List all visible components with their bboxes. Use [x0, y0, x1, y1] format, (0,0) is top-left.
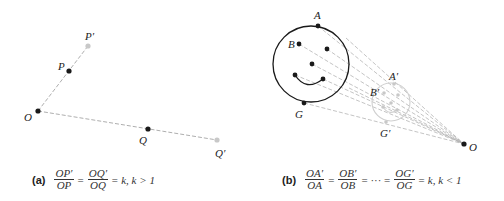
ray-oq: [38, 111, 217, 140]
right-eye-point: [325, 47, 330, 52]
point-o: [35, 108, 40, 113]
panel-b: A B G A′ B′ G′ O: [273, 9, 477, 153]
point-p: [66, 68, 71, 73]
nose-point: [310, 62, 315, 67]
fraction-oq: OQ′ OQ: [88, 168, 108, 191]
label-a: A: [313, 9, 321, 21]
label-q-prime: Q′: [215, 147, 226, 159]
ray-op: [38, 46, 88, 111]
label-a-prime: A′: [388, 70, 399, 82]
label-o: O: [24, 111, 32, 123]
center-o: [461, 141, 466, 146]
point-a-prime: [392, 82, 396, 86]
caption-a-tag: (a): [32, 174, 45, 186]
caption-b: (b) OA′ OA = OB′ OB = ··· = OG′ OG = k, …: [282, 168, 462, 191]
caption-b-ratio: = k, k < 1: [418, 174, 462, 186]
label-b-prime: B′: [370, 86, 380, 98]
original-mouth: [295, 75, 323, 85]
caption-a: (a) OP′ OP = OQ′ OQ = k, k > 1: [32, 168, 155, 191]
image-mouth-left: [381, 105, 385, 109]
label-g-prime: G′: [380, 127, 391, 139]
fraction-op: OP′ OP: [54, 168, 73, 191]
panel-a: P′ P O Q Q′: [24, 30, 226, 159]
point-q: [145, 126, 150, 131]
image-right-eye: [396, 93, 400, 97]
fraction-ob: OB′ OB: [338, 168, 357, 191]
image-mouth-right: [395, 108, 399, 112]
point-p-prime: [85, 43, 90, 48]
caption-b-tag: (b): [282, 174, 296, 186]
label-o-b: O: [469, 141, 477, 153]
point-b-prime: [382, 91, 386, 95]
label-p-prime: P′: [84, 30, 95, 42]
mouth-right-point: [321, 77, 326, 82]
label-q: Q: [139, 134, 147, 146]
point-q-prime: [214, 137, 219, 142]
point-g-prime: [384, 120, 388, 124]
point-a: [316, 24, 321, 29]
image-nose: [389, 101, 393, 105]
fraction-oa: OA′ OA: [305, 168, 324, 191]
fraction-og: OG′ OG: [394, 168, 414, 191]
caption-a-ratio: = k, k > 1: [111, 174, 155, 186]
point-b: [297, 42, 302, 47]
label-b: B: [288, 38, 295, 50]
point-g: [302, 101, 307, 106]
label-g: G: [295, 108, 303, 120]
label-p: P: [57, 60, 65, 72]
mouth-left-point: [293, 73, 298, 78]
